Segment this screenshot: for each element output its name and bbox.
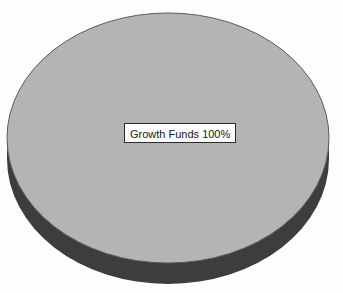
data-label-growth-funds: Growth Funds 100% [124,123,236,143]
pie-chart [0,0,343,293]
